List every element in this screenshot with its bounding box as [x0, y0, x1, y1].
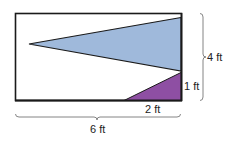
height-brace	[200, 14, 206, 101]
diagram-canvas: 4 ft 1 ft 2 ft 6 ft	[0, 0, 237, 141]
width-label: 6 ft	[90, 123, 105, 135]
height-label: 4 ft	[207, 51, 222, 63]
purple-base-label: 2 ft	[145, 103, 160, 115]
purple-height-label: 1 ft	[184, 80, 199, 92]
